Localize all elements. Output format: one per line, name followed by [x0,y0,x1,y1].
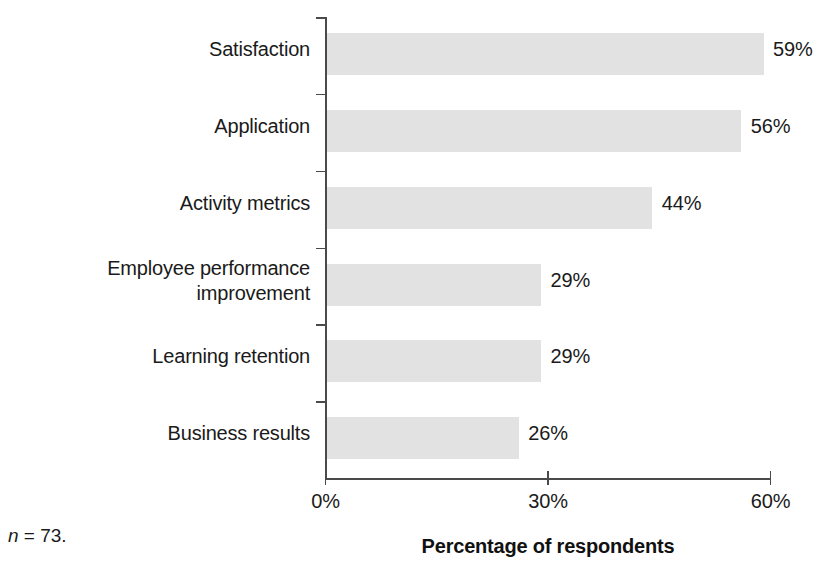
y-axis-tick [316,17,326,19]
category-label: Application [0,114,310,139]
y-axis-tick [316,248,326,250]
bar-value-label: 59% [773,38,812,60]
bar-value-label: 29% [551,345,590,367]
x-axis-tick-label: 0% [311,489,340,513]
bar-value-label: 56% [751,115,790,137]
y-axis-tick [316,171,326,173]
bar-satisfaction [326,33,764,75]
chart-row: Learning retention 29% [0,324,828,401]
x-axis-tick-label: 60% [751,489,790,513]
chart-row: Satisfaction 59% [0,17,828,94]
x-axis-tick [770,471,772,485]
category-label: Learning retention [0,344,310,369]
bar-value-label: 29% [551,269,590,291]
footnote-n-value: = 73. [19,525,67,546]
bar-employee-performance-improvement [326,264,541,306]
category-label: Employee performance improvement [0,256,310,306]
x-axis-tick [325,471,327,485]
y-axis-tick [316,401,326,403]
category-label: Business results [0,421,310,446]
category-label: Satisfaction [0,37,310,62]
x-axis-tick [547,471,549,485]
bar-learning-retention [326,340,541,382]
y-axis-tick [316,324,326,326]
category-label: Activity metrics [0,191,310,216]
footnote-n-symbol: n [8,525,19,546]
bar-activity-metrics [326,187,652,229]
bar-business-results [326,417,519,459]
category-label-line: improvement [0,281,310,306]
bar-application [326,110,741,152]
category-label-line: Employee performance [0,256,310,281]
chart-row: Activity metrics 44% [0,171,828,248]
sample-size-footnote: n = 73. [8,525,67,547]
x-axis-title: Percentage of respondents [325,535,771,558]
bar-value-label: 44% [662,192,701,214]
chart-row: Application 56% [0,94,828,171]
chart-row: Employee performance improvement 29% [0,248,828,325]
bar-value-label: 26% [528,422,567,444]
y-axis-tick [316,94,326,96]
chart-row: Business results 26% [0,401,828,478]
bar-chart-figure: Satisfaction 59% Application 56% Activit… [0,0,828,575]
x-axis-tick-label: 30% [528,489,567,513]
